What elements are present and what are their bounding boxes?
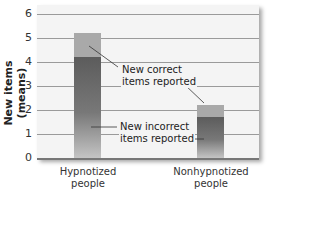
annotation-incorrect-line1: New incorrect bbox=[119, 121, 195, 133]
annotation-correct-line2: items reported bbox=[121, 76, 197, 88]
x-category-hypnotized: Hypnotized people bbox=[52, 166, 124, 190]
x-category-nonhypnotized: Nonhypnotized people bbox=[170, 166, 252, 190]
annotation-incorrect: New incorrect items reported bbox=[119, 121, 195, 145]
x-category-nonhypnotized-line1: Nonhypnotized bbox=[170, 166, 252, 178]
annotation-correct-line1: New correct bbox=[121, 64, 197, 76]
x-category-hypnotized-line1: Hypnotized bbox=[52, 166, 124, 178]
annotation-incorrect-line2: items reported bbox=[119, 133, 195, 145]
x-category-hypnotized-line2: people bbox=[52, 178, 124, 190]
annotation-correct: New correct items reported bbox=[121, 64, 197, 88]
x-category-nonhypnotized-line2: people bbox=[170, 178, 252, 190]
